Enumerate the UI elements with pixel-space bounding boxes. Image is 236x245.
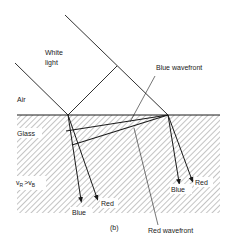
glass-label: Glass — [17, 130, 35, 137]
right-red-label: Red — [195, 179, 208, 186]
white-light-label-line2: light — [45, 59, 58, 67]
right-blue-label: Blue — [171, 186, 185, 193]
left-blue-label: Blue — [72, 209, 86, 216]
left-red-label: Red — [101, 200, 114, 207]
refraction-diagram: White light Air Blue wavefront Glass vR>… — [0, 0, 236, 245]
red-wavefront-label: Red wavefront — [148, 227, 193, 234]
blue-wavefront-label: Blue wavefront — [156, 64, 202, 71]
air-label: Air — [17, 96, 26, 103]
white-light-label-line1: White — [45, 49, 63, 56]
figure-label: (b) — [110, 224, 119, 232]
glass-region — [17, 115, 220, 213]
